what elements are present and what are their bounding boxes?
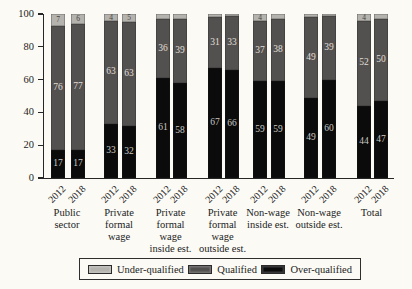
bar-value-label: 31 (210, 38, 220, 48)
stacked-bar-2012: 46333 (104, 14, 118, 178)
bar-value-label: 38 (273, 45, 283, 55)
bar-segment-over: 17 (51, 150, 65, 178)
category-label: Non-wageinside est. (246, 207, 290, 231)
bar-segment-qualified: 39 (173, 19, 187, 83)
x-tick-label: 2018 (220, 183, 242, 205)
category-label: Publicsector (54, 207, 81, 231)
bar-segment-qualified: 52 (357, 21, 371, 106)
x-tick-label: 2018 (168, 183, 190, 205)
bar-segment-over: 32 (122, 126, 136, 178)
y-tick-label: 20 (8, 139, 34, 151)
legend-item-over-qualified: Over-qualified (261, 264, 352, 275)
bar-value-label: 17 (73, 159, 83, 169)
bar-value-label: 76 (53, 83, 63, 93)
stacked-bar-2018: 3859 (271, 14, 285, 178)
bar-value-label: 5 (127, 14, 131, 22)
bar-value-label: 77 (73, 82, 83, 92)
x-tick-label: 2012 (99, 183, 121, 205)
stacked-bar-2012: 45244 (357, 14, 371, 178)
bar-segment-over: 60 (322, 80, 336, 178)
x-tick-label: 2018 (317, 183, 339, 205)
legend-swatch-under-qualified-icon (88, 265, 112, 274)
stacked-bar-2018: 3958 (173, 14, 187, 178)
category-label: Privateformalwageinside est. (150, 207, 192, 255)
bar-segment-qualified: 38 (271, 19, 285, 81)
bar-segment-over: 59 (253, 81, 267, 178)
bar-value-label: 39 (175, 46, 185, 56)
bar-value-label: 39 (324, 43, 334, 53)
bar-segment-qualified: 37 (253, 21, 267, 82)
stacked-bar-2012: 3167 (208, 14, 222, 178)
stacked-bar-2018: 56332 (122, 14, 136, 178)
bar-segment-over: 61 (156, 78, 170, 178)
x-tick-label: 2018 (266, 183, 288, 205)
bar-segment-over: 59 (271, 81, 285, 178)
bar-segment-qualified: 76 (51, 26, 65, 151)
x-tick-label: 2012 (46, 183, 68, 205)
category-label: Non-wageoutside est. (295, 207, 342, 231)
bar-segment-qualified: 49 (304, 17, 318, 97)
bar-value-label: 58 (175, 126, 185, 136)
bar-segment-over: 58 (173, 83, 187, 178)
category-label: Privateformalwage (104, 207, 134, 243)
bar-segment-under: 7 (51, 14, 65, 25)
bar-segment-over: 17 (71, 150, 85, 178)
bar-segment-under: 6 (71, 14, 85, 24)
bar-value-label: 63 (106, 67, 116, 77)
plot-area: Percentage 02040608010077617677174633356… (43, 14, 394, 179)
bar-segment-over: 44 (357, 106, 371, 178)
bar-segment-over: 49 (304, 98, 318, 178)
bar-value-label: 32 (124, 147, 134, 157)
bar-segment-qualified: 63 (122, 22, 136, 125)
y-tick-label: 60 (8, 74, 34, 86)
bar-segment-over: 47 (374, 101, 388, 178)
bar-value-label: 59 (273, 125, 283, 135)
bar-value-label: 47 (376, 135, 386, 145)
legend-swatch-over-qualified-icon (261, 265, 285, 274)
stacked-bar-2012: 3661 (156, 14, 170, 178)
bar-value-label: 6 (76, 15, 80, 23)
bar-segment-under: 5 (122, 14, 136, 22)
y-tick-mark (38, 13, 43, 14)
x-tick-label: 2018 (369, 183, 391, 205)
category-label: Total (361, 207, 382, 219)
bar-segment-qualified: 63 (104, 21, 118, 124)
bar-segment-over: 67 (208, 68, 222, 178)
bar-value-label: 36 (158, 44, 168, 54)
stacked-bar-2018: 3366 (225, 14, 239, 178)
bar-segment-qualified: 31 (208, 17, 222, 68)
legend-box: Under-qualified Qualified Over-qualified (79, 258, 361, 280)
bar-segment-qualified: 77 (71, 24, 85, 150)
bar-segment-qualified: 36 (156, 19, 170, 78)
bar-value-label: 37 (255, 46, 265, 56)
bar-value-label: 59 (255, 125, 265, 135)
bar-value-label: 50 (376, 55, 386, 65)
legend-label: Qualified (217, 264, 257, 275)
category-label: Privateformalwageoutside est. (199, 207, 246, 255)
y-tick-label: 100 (8, 8, 34, 20)
bar-segment-qualified: 50 (374, 19, 388, 101)
stacked-bar-2018: 3960 (322, 14, 336, 178)
bar-value-label: 49 (306, 53, 316, 63)
bar-value-label: 60 (324, 124, 334, 134)
bar-value-label: 49 (306, 133, 316, 143)
legend-label: Under-qualified (117, 264, 184, 275)
stacked-bar-2018: 67717 (71, 14, 85, 178)
legend-item-qualified: Qualified (188, 264, 257, 275)
y-tick-label: 0 (8, 172, 34, 184)
bar-value-label: 33 (106, 146, 116, 156)
x-tick-label: 2012 (299, 183, 321, 205)
legend-swatch-qualified-icon (188, 265, 212, 274)
y-tick-label: 80 (8, 41, 34, 53)
y-tick-mark (38, 79, 43, 80)
bar-value-label: 44 (359, 137, 369, 147)
bar-segment-over: 33 (104, 124, 118, 178)
bar-value-label: 7 (56, 16, 60, 24)
chart-figure: Percentage 02040608010077617677174633356… (0, 0, 412, 289)
bar-value-label: 17 (53, 159, 63, 169)
stacked-bar-2018: 5047 (374, 14, 388, 178)
stacked-bar-2012: 77617 (51, 14, 65, 178)
x-tick-label: 2018 (117, 183, 139, 205)
bar-segment-over: 66 (225, 70, 239, 178)
bar-segment-qualified: 33 (225, 16, 239, 70)
